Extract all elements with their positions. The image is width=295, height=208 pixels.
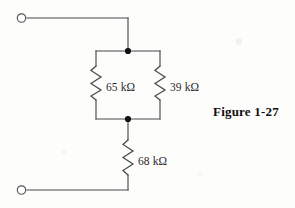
resistor-39k-label: 39 kΩ — [170, 81, 199, 93]
resistor-65k-label: 65 kΩ — [106, 81, 135, 93]
resistor-68k-symbol — [123, 140, 133, 175]
bottom-terminal-icon — [17, 186, 25, 194]
top-terminal-icon — [17, 14, 25, 22]
figure-page: 65 kΩ 39 kΩ 68 kΩ Figure 1-27 — [0, 0, 295, 208]
figure-caption: Figure 1-27 — [213, 104, 279, 120]
top-junction-node — [125, 48, 131, 54]
resistor-65k-symbol — [91, 66, 101, 100]
resistor-39k-symbol — [155, 66, 165, 100]
resistor-68k-label: 68 kΩ — [138, 155, 167, 167]
bottom-junction-node — [125, 116, 131, 122]
